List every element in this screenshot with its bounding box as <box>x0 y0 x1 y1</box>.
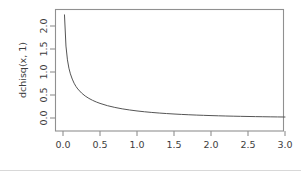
x-axis-tick-labels: 0.0 0.5 1.0 1.5 2.0 2.5 3.0 <box>55 139 292 150</box>
y-tick-label-3: 1.5 <box>38 41 49 56</box>
y-tick-label-0: 0.0 <box>38 110 49 125</box>
y-axis-ticks <box>50 26 55 118</box>
x-tick-label-6: 3.0 <box>277 139 292 150</box>
x-tick-label-2: 1.0 <box>129 139 144 150</box>
x-tick-label-0: 0.0 <box>55 139 70 150</box>
x-tick-label-1: 0.5 <box>92 139 107 150</box>
y-tick-label-1: 0.5 <box>38 87 49 102</box>
data-curve-dchisq <box>64 15 285 117</box>
y-axis-title: dchisq(x, 1) <box>17 42 28 98</box>
x-tick-label-3: 1.5 <box>166 139 181 150</box>
chart-plot-svg: 0.0 0.5 1.0 1.5 2.0 2.5 3.0 0.0 0.5 1.0 … <box>0 0 301 177</box>
x-axis-ticks <box>63 131 285 136</box>
chart-figure: 0.0 0.5 1.0 1.5 2.0 2.5 3.0 0.0 0.5 1.0 … <box>0 0 301 177</box>
y-axis-tick-labels: 0.0 0.5 1.0 1.5 2.0 <box>38 18 49 125</box>
y-tick-label-4: 2.0 <box>38 18 49 33</box>
x-tick-label-4: 2.0 <box>203 139 218 150</box>
x-tick-label-5: 2.5 <box>240 139 255 150</box>
y-tick-label-2: 1.0 <box>38 64 49 79</box>
plot-frame <box>56 10 284 132</box>
